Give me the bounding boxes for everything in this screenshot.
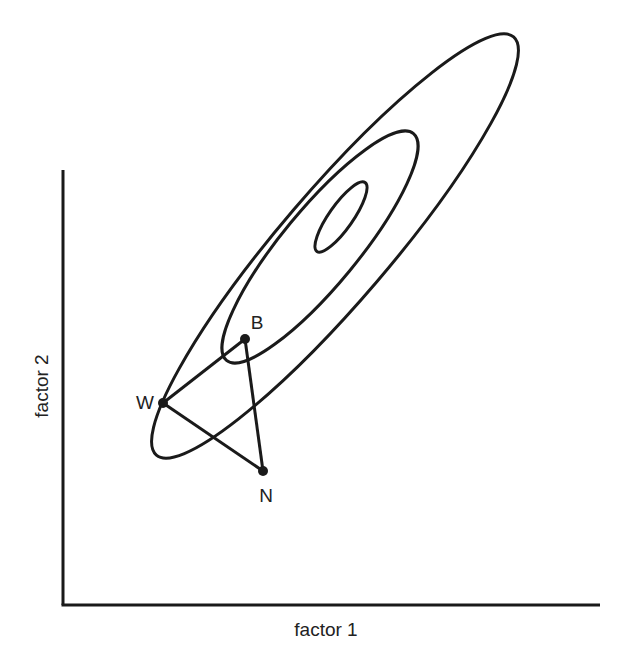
x-axis-label: factor 1 <box>294 619 357 640</box>
vertex-n-dot <box>258 466 268 476</box>
simplex-triangle <box>163 339 263 471</box>
simplex-contour-diagram: BWN factor 1 factor 2 <box>0 0 630 652</box>
contour-inner <box>307 176 375 259</box>
vertex-b-label: B <box>251 312 264 333</box>
y-axis-label: factor 2 <box>31 354 52 417</box>
contour-outer <box>115 1 556 491</box>
vertex-w-label: W <box>136 392 154 413</box>
vertex-b-dot <box>240 334 250 344</box>
vertex-w-dot <box>158 398 168 408</box>
edge-w-b <box>163 339 245 403</box>
response-contours <box>115 1 556 491</box>
axes <box>62 170 601 605</box>
vertex-n-label: N <box>259 485 273 506</box>
